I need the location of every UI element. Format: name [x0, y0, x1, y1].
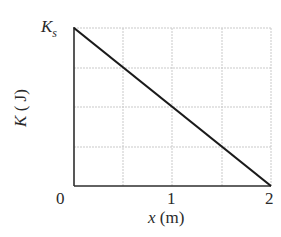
x-axis-label: x (m)	[148, 208, 184, 228]
y-axis-var: K	[11, 116, 30, 127]
y-axis-unit: ( J)	[11, 89, 30, 115]
ks-subscript: s	[52, 26, 57, 40]
y-tick-ks: Ks	[41, 17, 57, 37]
x-tick-1: 1	[167, 189, 176, 209]
data-line	[74, 28, 271, 186]
x-axis-unit: (m)	[156, 208, 185, 227]
ks-main: K	[41, 17, 52, 36]
x-axis-var: x	[148, 208, 156, 227]
origin-label: 0	[56, 189, 65, 209]
x-tick-2: 2	[265, 189, 274, 209]
y-axis-label: K ( J)	[11, 89, 31, 127]
